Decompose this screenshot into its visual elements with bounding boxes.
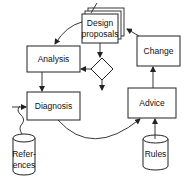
- edge-change-to-proposals: [127, 29, 139, 36]
- change-node: Change: [137, 36, 180, 66]
- analysis-label: Analysis: [38, 54, 70, 64]
- diagnosis-node: Diagnosis: [27, 92, 80, 120]
- references-label-line2: ences: [13, 160, 36, 170]
- design-proposals-node: Design proposals: [82, 8, 124, 43]
- design-proposals-label-line1: Design: [87, 18, 114, 28]
- change-label: Change: [144, 46, 174, 56]
- advice-node: Advice: [128, 88, 176, 118]
- edge-diagnosis-to-advice: [58, 119, 140, 139]
- design-proposals-label-line2: proposals: [82, 29, 119, 39]
- decision-diamond: [91, 58, 113, 80]
- edge-references-to-diagnosis: [18, 106, 24, 134]
- cycle-diagram: Design proposals Analysis Change Diagnos…: [0, 0, 184, 184]
- diagnosis-label: Diagnosis: [35, 101, 72, 111]
- references-database: Refer- ences: [12, 134, 36, 175]
- advice-label: Advice: [139, 98, 165, 108]
- edge-proposals-to-analysis: [55, 22, 82, 44]
- references-label-line1: Refer-: [12, 149, 36, 159]
- analysis-node: Analysis: [27, 46, 80, 72]
- rules-label: Rules: [145, 149, 167, 159]
- rules-database: Rules: [143, 135, 168, 170]
